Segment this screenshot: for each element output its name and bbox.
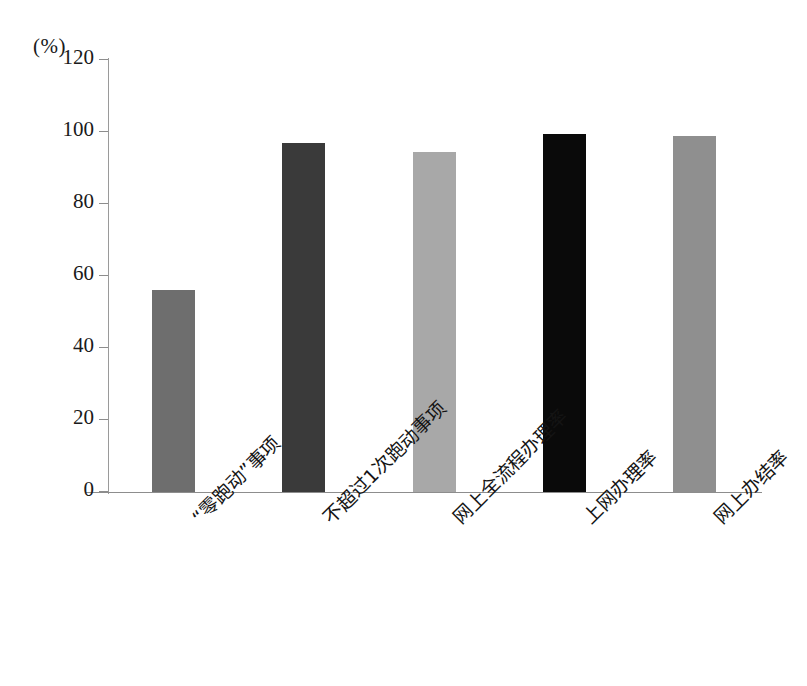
bar: [673, 136, 716, 492]
y-axis-tick-mark: [99, 131, 108, 132]
y-axis-tick-mark: [99, 275, 108, 276]
bar-chart: (%) 120100806040200 “零跑动”事项不超过1次跑动事项网上全流…: [0, 0, 807, 686]
bar: [152, 290, 195, 492]
y-axis-tick-label: 120: [63, 47, 95, 68]
x-axis-line: [86, 492, 762, 493]
y-axis-tick-label: 40: [73, 335, 94, 356]
y-axis-tick-mark: [99, 491, 108, 492]
y-axis-tick-mark: [99, 419, 108, 420]
y-axis-tick-mark: [99, 203, 108, 204]
y-axis-tick-label: 100: [63, 119, 95, 140]
bar: [282, 143, 325, 492]
y-axis-tick-mark: [99, 347, 108, 348]
y-axis-tick-label: 60: [73, 263, 94, 284]
y-axis-tick-mark: [99, 59, 108, 60]
y-axis-tick-label: 0: [84, 479, 95, 500]
y-axis-unit-label: (%): [33, 36, 66, 57]
y-axis-tick-label: 80: [73, 191, 94, 212]
y-axis-tick-label: 20: [73, 407, 94, 428]
